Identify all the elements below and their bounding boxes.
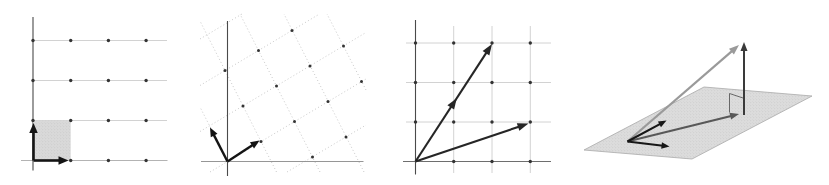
lattice-dot bbox=[291, 29, 294, 32]
lattice-dot bbox=[490, 81, 493, 84]
lattice-dot bbox=[345, 136, 348, 139]
lattice-dot bbox=[242, 105, 245, 108]
dotted-lattice-line bbox=[200, 14, 242, 39]
lattice-dot bbox=[224, 69, 227, 72]
dotted-lattice-line bbox=[287, 125, 366, 172]
lattice-dot bbox=[69, 79, 72, 82]
vector-2-3-with-midpoint-head-head bbox=[483, 44, 492, 55]
figure-canvas bbox=[0, 0, 829, 185]
lattice-dot bbox=[260, 140, 263, 143]
lattice-dot bbox=[144, 119, 147, 122]
lattice-dot bbox=[31, 39, 34, 42]
lattice-dot bbox=[144, 39, 147, 42]
lattice-dot bbox=[414, 120, 417, 123]
panel-two-vectors-on-grid bbox=[403, 20, 551, 175]
lattice-dot bbox=[529, 41, 532, 44]
lattice-dot bbox=[107, 79, 110, 82]
lattice-dot bbox=[360, 80, 363, 83]
vector-2-3-with-midpoint-head-mid-head bbox=[447, 98, 456, 109]
lattice-dot bbox=[275, 85, 278, 88]
vector-3-1-head bbox=[517, 123, 529, 131]
lattice-dot bbox=[309, 65, 312, 68]
lattice-dot bbox=[293, 120, 296, 123]
lattice-dot bbox=[452, 120, 455, 123]
lattice-dot bbox=[257, 49, 260, 52]
basis-vector-u bbox=[228, 141, 260, 162]
dotted-lattice-line bbox=[284, 14, 364, 172]
plane-parallelogram-texture bbox=[584, 87, 812, 159]
lattice-dot bbox=[414, 41, 417, 44]
lattice-dot bbox=[311, 156, 314, 159]
lattice-dot bbox=[490, 41, 493, 44]
lattice-dot bbox=[452, 160, 455, 163]
dotted-lattice-line bbox=[240, 14, 320, 172]
lattice-dot bbox=[31, 79, 34, 82]
dotted-lattice-line bbox=[200, 21, 277, 172]
lattice-dot bbox=[452, 41, 455, 44]
lattice-dot bbox=[144, 159, 147, 162]
dotted-lattice-line bbox=[327, 14, 366, 90]
vector-3-1 bbox=[416, 123, 529, 161]
four-panel-vector-lattice-figure bbox=[0, 0, 829, 185]
lattice-dot bbox=[414, 81, 417, 84]
lattice-dot bbox=[107, 119, 110, 122]
panel-skewed-lattice-basis bbox=[200, 14, 366, 176]
lattice-dot bbox=[69, 159, 72, 162]
lattice-dot bbox=[529, 160, 532, 163]
basis-vector-u-shaft bbox=[228, 143, 256, 161]
lattice-dot bbox=[327, 100, 330, 103]
lattice-dot bbox=[69, 119, 72, 122]
lattice-dot bbox=[69, 39, 72, 42]
lattice-dot bbox=[490, 120, 493, 123]
lattice-dot bbox=[342, 45, 345, 48]
orthogonal-component-head bbox=[741, 42, 748, 51]
lattice-dot bbox=[529, 120, 532, 123]
lattice-dot bbox=[490, 160, 493, 163]
vector-3-1-shaft bbox=[416, 125, 523, 161]
basis-vector-v bbox=[210, 128, 228, 162]
lattice-dot bbox=[529, 81, 532, 84]
lattice-dot bbox=[452, 81, 455, 84]
lattice-dot bbox=[107, 159, 110, 162]
panel-unit-grid-standard-basis bbox=[21, 17, 168, 171]
panel-plane-projection-3d bbox=[584, 42, 812, 159]
basis-vector-v-shaft bbox=[212, 132, 227, 162]
unit-square-shading-texture bbox=[33, 121, 71, 161]
dotted-lattice-line bbox=[200, 33, 366, 132]
lattice-dot bbox=[144, 79, 147, 82]
lattice-dot bbox=[107, 39, 110, 42]
lattice-dot bbox=[31, 119, 34, 122]
